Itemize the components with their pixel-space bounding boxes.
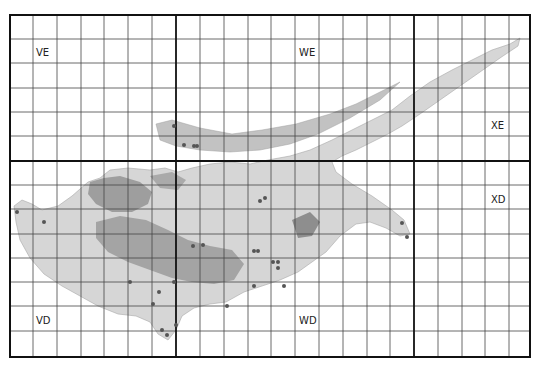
record-dot bbox=[15, 210, 19, 214]
record-dot bbox=[172, 280, 176, 284]
record-dot bbox=[201, 243, 205, 247]
record-dot bbox=[42, 220, 46, 224]
square-label-wd: WD bbox=[299, 315, 317, 326]
square-label-we: WE bbox=[299, 47, 315, 58]
record-dot bbox=[128, 280, 132, 284]
record-dot bbox=[263, 196, 267, 200]
square-label-xe: XE bbox=[491, 120, 504, 131]
record-dot bbox=[258, 199, 262, 203]
record-dot bbox=[160, 328, 164, 332]
record-dot bbox=[191, 244, 195, 248]
record-dot bbox=[256, 249, 260, 253]
square-label-ve: VE bbox=[36, 47, 49, 58]
square-label-vd: VD bbox=[36, 315, 51, 326]
record-dot bbox=[174, 323, 178, 327]
record-dot bbox=[225, 304, 229, 308]
record-dot bbox=[276, 260, 280, 264]
record-dot bbox=[182, 143, 186, 147]
record-dot bbox=[157, 290, 161, 294]
record-dot bbox=[151, 302, 155, 306]
record-dot bbox=[252, 284, 256, 288]
grid-map: VEWEXEVDWDXD bbox=[0, 0, 543, 369]
record-dot bbox=[165, 333, 169, 337]
island-shape bbox=[14, 38, 520, 340]
record-dot bbox=[172, 124, 176, 128]
record-dot bbox=[276, 266, 280, 270]
square-label-xd: XD bbox=[491, 194, 506, 205]
record-dot bbox=[271, 260, 275, 264]
record-dot bbox=[252, 249, 256, 253]
record-dot bbox=[400, 221, 404, 225]
record-dot bbox=[195, 144, 199, 148]
record-dot bbox=[405, 235, 409, 239]
record-dot bbox=[282, 284, 286, 288]
